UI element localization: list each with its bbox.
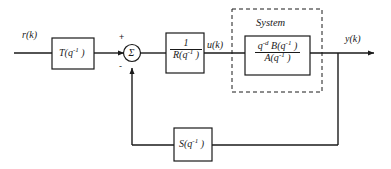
plant-denominator-base: A(q bbox=[264, 52, 278, 63]
plant-fraction: q-d B(q-1 ) A(q-1 ) bbox=[255, 41, 300, 63]
feedback-block-label: S(q-1 ) bbox=[179, 139, 204, 149]
controller-block-label: 1 R(q-1 ) bbox=[170, 38, 200, 60]
control-signal-label: u(k) bbox=[207, 40, 223, 50]
prefilter-label-base: T(q bbox=[59, 47, 73, 58]
controller-fraction: 1 R(q-1 ) bbox=[170, 38, 202, 60]
feedback-label-tail: ) bbox=[198, 138, 204, 149]
plant-numerator-tail: ) bbox=[291, 40, 297, 51]
controller-denominator: R(q-1 ) bbox=[170, 50, 202, 61]
feedback-label-base: S(q bbox=[179, 138, 192, 149]
system-boundary-label: System bbox=[256, 18, 285, 29]
output-signal-label: y(k) bbox=[345, 34, 361, 44]
prefilter-block-label: T(q-1 ) bbox=[59, 48, 85, 58]
controller-denominator-base: R(q bbox=[173, 49, 187, 60]
summing-junction-sigma: Σ bbox=[129, 48, 135, 58]
summing-junction-plus-sign: + bbox=[119, 33, 124, 42]
reference-signal-label: r(k) bbox=[22, 30, 37, 40]
plant-denominator-tail: ) bbox=[285, 52, 291, 63]
summing-junction-minus-sign: - bbox=[119, 62, 122, 71]
plant-denominator: A(q-1 ) bbox=[255, 53, 300, 64]
plant-block-label: q-d B(q-1 ) A(q-1 ) bbox=[249, 41, 306, 63]
prefilter-label-tail: ) bbox=[79, 47, 85, 58]
controller-denominator-tail: ) bbox=[193, 49, 199, 60]
block-diagram: r(k) T(q-1 ) Σ + - 1 R(q-1 ) u(k) System… bbox=[0, 0, 391, 169]
